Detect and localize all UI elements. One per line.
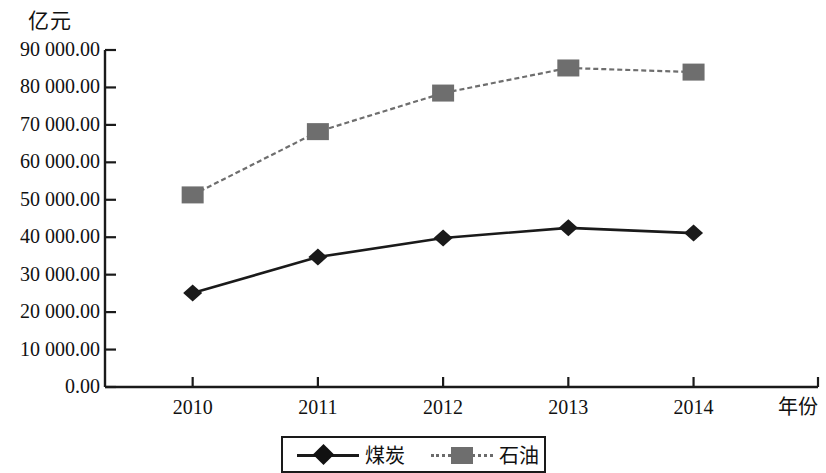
legend-label-coal: 煤炭 (365, 440, 405, 469)
data-point-marker (434, 229, 453, 246)
data-point-marker (684, 225, 703, 242)
x-axis-tick-label: 2013 (523, 396, 613, 418)
legend-item-coal: 煤炭 (297, 438, 405, 471)
x-axis-tick-label: 2012 (398, 396, 488, 418)
legend-item-oil: 石油 (431, 438, 539, 471)
data-point-marker (308, 249, 327, 266)
data-point-marker (559, 219, 578, 236)
x-axis-tick-label: 2014 (649, 396, 739, 418)
data-point-marker (307, 123, 329, 140)
data-point-marker (557, 59, 579, 76)
x-axis-title: 年份 (778, 396, 818, 418)
legend-label-oil: 石油 (499, 440, 539, 469)
coal-series-icon (297, 444, 359, 466)
data-series (182, 59, 705, 301)
x-axis-tick-label: 2011 (273, 396, 363, 418)
line-chart: 亿元 90 000.0080 000.0070 000.0060 000.005… (0, 0, 826, 473)
axes (105, 50, 818, 387)
data-point-marker (182, 186, 204, 203)
legend: 煤炭 石油 (281, 436, 546, 473)
data-point-marker (432, 85, 454, 102)
x-axis-tick-label: 2010 (148, 396, 238, 418)
data-point-marker (183, 285, 202, 302)
oil-series-icon (431, 444, 493, 466)
data-point-marker (683, 64, 705, 81)
